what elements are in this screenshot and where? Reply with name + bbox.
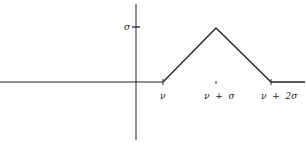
y-label-sigma: σ [124,22,131,32]
x-label-nu-plus-2sigma: ν + 2σ [261,91,298,101]
x-label-nu-plus-sigma: ν + σ [204,91,235,101]
tent-function-curve [163,28,305,82]
x-label-nu: ν [160,91,166,101]
tent-function-diagram: σ ν ν + σ ν + 2σ [0,0,306,146]
